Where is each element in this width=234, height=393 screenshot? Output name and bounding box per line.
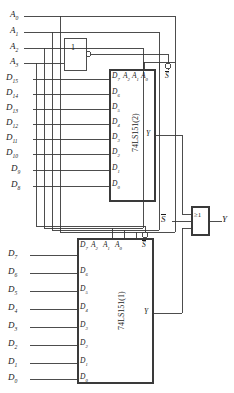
upper-pin-a2: A2	[123, 72, 130, 82]
lower-chip-part-label: 74LS151(1)	[117, 291, 126, 330]
label-a2: A2	[10, 42, 18, 53]
lower-pin-d4-row: D4	[80, 303, 88, 313]
lower-chip-output-label: Y	[144, 308, 148, 316]
label-a0: A0	[10, 10, 18, 21]
wire-lower-y	[153, 228, 192, 313]
lower-pin-d0-row: D0	[80, 373, 88, 383]
lower-pin-a0: A0	[115, 241, 122, 251]
inverter-body	[64, 38, 86, 70]
label-a3: A3	[10, 57, 18, 68]
lower-pin-strobe: S	[142, 241, 146, 249]
or-gate-label: ≥1	[194, 211, 201, 219]
label-d1: D1	[8, 357, 17, 368]
strobe-label: S	[161, 215, 166, 224]
inverter-bubble	[86, 52, 91, 57]
label-a1: A1	[10, 26, 18, 37]
label-d0: D0	[8, 373, 17, 384]
upper-pin-d2: D2	[112, 148, 120, 158]
upper-pin-d7: D7	[112, 72, 120, 82]
lower-pin-d2-row: D2	[80, 339, 88, 349]
upper-pin-a1: A1	[132, 72, 139, 82]
label-d7: D7	[8, 249, 17, 260]
inverter-label: 1	[71, 43, 75, 52]
upper-chip-output-label: Y	[146, 130, 150, 138]
lower-pin-d1-row: D1	[80, 357, 88, 367]
upper-chip-part-label: 74LS151(2)	[131, 113, 140, 152]
lower-strobe-bubble	[142, 232, 147, 237]
upper-pin-d5: D5	[112, 103, 120, 113]
label-d10: D10	[6, 148, 18, 159]
upper-pin-d6: D6	[112, 88, 120, 98]
circuit-diagram-canvas: A0 A1 A2 A3 1 ≥1 Y S D7 A2 A1 A0 S 74LS1…	[0, 0, 234, 393]
lower-chip-body	[78, 239, 153, 383]
wire-upper-y	[155, 135, 192, 214]
label-d4: D4	[8, 303, 17, 314]
upper-strobe-bubble	[165, 63, 170, 68]
lower-pin-d3-row: D3	[80, 321, 88, 331]
lower-pin-d6-row: D6	[80, 267, 88, 277]
lower-pin-a1: A1	[103, 241, 110, 251]
label-d15: D15	[6, 73, 18, 84]
upper-pin-d1: D1	[112, 164, 120, 174]
lower-pin-d5-row: D5	[80, 285, 88, 295]
label-d9: D9	[11, 164, 20, 175]
upper-pin-d0: D0	[112, 180, 120, 190]
upper-pin-d4: D4	[112, 118, 120, 128]
upper-pin-strobe: S	[165, 72, 169, 80]
label-d13: D13	[6, 103, 18, 114]
lower-pin-d7: D7	[80, 241, 88, 251]
label-d5: D5	[8, 285, 17, 296]
wire-layer	[0, 0, 234, 393]
label-d2: D2	[8, 339, 17, 350]
label-d14: D14	[6, 88, 18, 99]
upper-pin-a0: A0	[141, 72, 148, 82]
label-d12: D12	[6, 118, 18, 129]
or-gate-output-label: Y	[222, 215, 227, 224]
label-d3: D3	[8, 321, 17, 332]
upper-pin-d3: D3	[112, 133, 120, 143]
label-d11: D11	[6, 133, 18, 144]
label-d8: D8	[11, 180, 20, 191]
lower-pin-a2: A2	[91, 241, 98, 251]
label-d6: D6	[8, 267, 17, 278]
